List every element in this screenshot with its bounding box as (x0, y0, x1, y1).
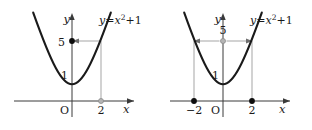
origin-label-right: O (211, 104, 220, 117)
point-marker-y5-right (221, 39, 226, 44)
origin-label-left: O (60, 104, 69, 117)
x-tick-label-neg2-right: −2 (186, 104, 202, 117)
x-tick-label-2-right: 2 (249, 104, 256, 117)
y-intercept-label-right: 1 (212, 69, 219, 82)
equation-base-right: y=x (249, 14, 272, 27)
equation-label-left: y=x2+1 (98, 13, 142, 27)
point-marker-y5-left (69, 38, 75, 44)
y-tick-label-5-left: 5 (58, 36, 65, 49)
equation-label-right: y=x2+1 (249, 13, 293, 27)
y-intercept-label-left: 1 (61, 69, 68, 82)
figure-root: y x O 5 1 2 y=x2+1 (0, 0, 312, 130)
x-axis-left (14, 98, 134, 104)
x-axis-label-left: x (123, 102, 130, 116)
x-tick-label-2-left: 2 (98, 104, 105, 117)
equation-tail-left: +1 (125, 14, 141, 27)
x-axis-right (170, 98, 290, 104)
point-marker-x2-left (99, 99, 104, 104)
equation-base-left: y=x (98, 14, 121, 27)
y-axis-label-left: y (63, 12, 71, 26)
equation-tail-right: +1 (276, 14, 292, 27)
y-tick-label-5-right: 5 (220, 24, 227, 37)
panel-left: y x O 5 1 2 y=x2+1 (0, 0, 156, 130)
x-axis-label-right: x (279, 102, 286, 116)
panel-right: y x O 5 1 −2 2 y=x2+1 (156, 0, 312, 130)
